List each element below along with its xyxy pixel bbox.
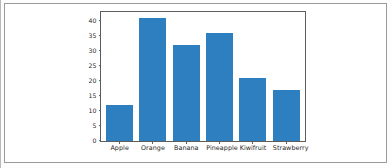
y-axis-tick-label: 30 (88, 48, 98, 54)
plot-axes: 0 5 10 15 20 25 (100, 11, 306, 142)
y-axis-tick-2: 10 (88, 108, 101, 114)
chart-screenshot: 0 5 10 15 20 25 (0, 0, 391, 168)
scan-edge-line (0, 0, 1, 168)
y-axis-tick-0: 0 (92, 138, 101, 144)
x-axis-label-orange: Orange (139, 145, 166, 151)
y-axis-tick-label: 40 (88, 18, 98, 24)
y-axis-tick-7: 35 (88, 33, 101, 39)
y-axis-tick-6: 30 (88, 48, 101, 54)
bar-series (101, 12, 305, 141)
y-axis-tick-1: 5 (92, 123, 101, 129)
x-axis-label-banana: Banana (173, 145, 200, 151)
bar-banana (173, 45, 200, 141)
y-axis-tick-label: 20 (88, 78, 98, 84)
y-axis-tick-3: 15 (88, 93, 101, 99)
y-axis-tick-4: 20 (88, 78, 101, 84)
y-axis-tick-8: 40 (88, 18, 101, 24)
bar-apple (106, 105, 133, 141)
y-axis-tick-label: 25 (88, 63, 98, 69)
x-axis-label-strawberry: Strawberry (273, 145, 300, 151)
bar-orange (139, 18, 166, 141)
bar-pineapple (206, 33, 233, 141)
y-axis-tick-5: 25 (88, 63, 101, 69)
y-axis-tick-label: 10 (88, 108, 98, 114)
y-axis-tick-label: 15 (88, 93, 98, 99)
bar-strawberry (273, 90, 300, 141)
x-axis-label-apple: Apple (106, 145, 133, 151)
x-axis-label-kiwifruit: Kiwifruit (239, 145, 266, 151)
x-axis-tick-labels: Apple Orange Banana Pineapple Kiwifruit … (101, 145, 305, 151)
figure-canvas: 0 5 10 15 20 25 (5, 4, 386, 162)
bar-kiwifruit (239, 78, 266, 141)
x-axis-label-pineapple: Pineapple (206, 145, 233, 151)
y-axis-tick-label: 35 (88, 33, 98, 39)
